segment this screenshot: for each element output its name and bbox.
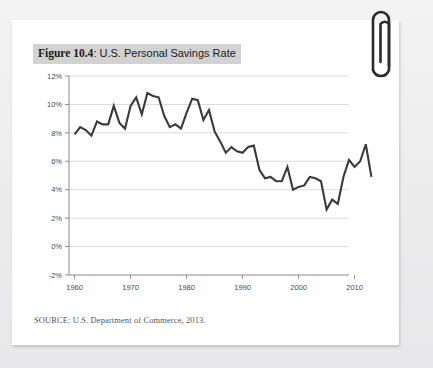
y-tick-label: 8% — [51, 129, 62, 138]
y-tick-label: 12% — [47, 72, 62, 81]
savings-rate-line-chart: -2%0%2%4%6%8%10%12% 19601970198019902000… — [33, 70, 378, 305]
figure-card: Figure 10.4: U.S. Personal Savings Rate … — [12, 20, 399, 345]
figure-number: Figure 10.4 — [38, 47, 93, 59]
x-tick-label: 2010 — [346, 283, 363, 292]
y-tick-label: 2% — [51, 214, 62, 223]
y-tick-label: 4% — [51, 185, 62, 194]
y-tick-label: 10% — [47, 100, 62, 109]
source-note: SOURCE: U.S. Department of Commerce, 201… — [34, 315, 206, 325]
y-axis-ticks: -2%0%2%4%6%8%10%12% — [47, 72, 69, 280]
paperclip-icon — [362, 4, 398, 84]
x-tick-label: 2000 — [290, 283, 307, 292]
x-tick-label: 1960 — [66, 283, 83, 292]
y-tick-label: 6% — [51, 157, 62, 166]
x-axis-ticks: 196019701980199020002010 — [66, 275, 363, 292]
data-series-line — [75, 93, 372, 210]
figure-title-text: U.S. Personal Savings Rate — [100, 47, 236, 59]
x-tick-label: 1980 — [178, 283, 195, 292]
y-tick-label: 0% — [51, 242, 62, 251]
figure-title: Figure 10.4: U.S. Personal Savings Rate — [33, 44, 241, 64]
gridlines — [69, 76, 349, 247]
x-tick-label: 1970 — [122, 283, 139, 292]
y-tick-label: -2% — [49, 271, 63, 280]
x-tick-label: 1990 — [234, 283, 251, 292]
chart-plot-area: -2%0%2%4%6%8%10%12% 19601970198019902000… — [33, 70, 378, 305]
